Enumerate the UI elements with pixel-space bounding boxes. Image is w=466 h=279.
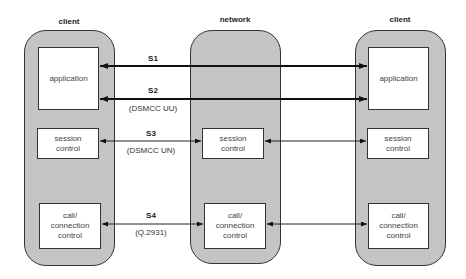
s4-label: S4 — [111, 211, 191, 220]
s3-protocol-label: (DSMCC UN) — [111, 146, 191, 155]
s2-label: S2 — [113, 86, 193, 95]
s2-protocol-label: (DSMCC UU) — [113, 104, 193, 113]
s4-protocol-label: (Q.2931) — [111, 228, 191, 237]
connection-arrows — [0, 0, 466, 279]
s3-label: S3 — [111, 129, 191, 138]
s1-label: S1 — [113, 54, 193, 63]
